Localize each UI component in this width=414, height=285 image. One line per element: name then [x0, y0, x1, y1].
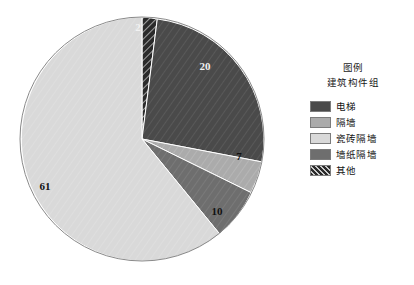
legend: 图例 建筑构件组 电梯 隔墙 瓷砖隔墙 墙纸隔墙 其他	[300, 62, 412, 179]
slice-value-label: 61	[40, 180, 51, 192]
legend-subtitle: 建筑构件组	[300, 77, 406, 89]
legend-item-qiangzhigeqiang[interactable]: 墙纸隔墙	[310, 147, 412, 162]
pie-chart-plot-area: 2 20 7 10 61	[18, 8, 280, 270]
legend-swatch-icon	[310, 117, 331, 128]
legend-item-label: 瓷砖隔墙	[336, 131, 377, 145]
slice-value-label: 2	[135, 21, 141, 33]
legend-title-block: 图例 建筑构件组	[300, 62, 412, 89]
legend-item-label: 墙纸隔墙	[336, 147, 377, 161]
legend-swatch-icon	[310, 101, 331, 112]
legend-item-label: 电梯	[336, 99, 356, 113]
pie-chart-figure: 2 20 7 10 61 图例 建筑构件组 电梯 隔墙 瓷砖隔墙	[0, 0, 414, 285]
legend-items: 电梯 隔墙 瓷砖隔墙 墙纸隔墙 其他	[300, 99, 412, 178]
legend-item-cizhuangeqiang[interactable]: 瓷砖隔墙	[310, 131, 412, 146]
legend-item-dianti[interactable]: 电梯	[310, 99, 412, 114]
slice-value-label: 10	[212, 205, 224, 217]
slice-value-label: 7	[236, 150, 242, 162]
legend-item-qita[interactable]: 其他	[310, 163, 412, 178]
legend-item-label: 其他	[336, 163, 356, 177]
slice-value-label: 20	[200, 60, 212, 72]
legend-swatch-icon	[310, 165, 331, 176]
legend-item-geqiang[interactable]: 隔墙	[310, 115, 412, 130]
legend-swatch-icon	[310, 149, 331, 160]
legend-title: 图例	[300, 62, 406, 74]
pie-svg: 2 20 7 10 61	[18, 8, 280, 270]
pie-slice-dianti[interactable]	[142, 19, 264, 162]
legend-swatch-icon	[310, 133, 331, 144]
legend-item-label: 隔墙	[336, 115, 356, 129]
